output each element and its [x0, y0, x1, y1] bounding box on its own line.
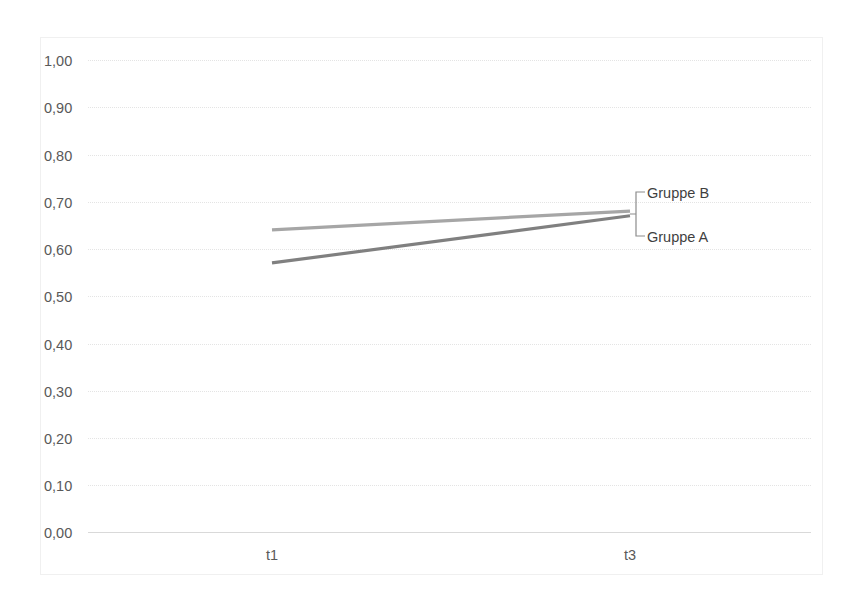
chart-frame [40, 37, 823, 575]
chart-container: 1,00 0,90 0,80 0,70 0,60 0,50 0,40 0,30 … [0, 0, 862, 598]
